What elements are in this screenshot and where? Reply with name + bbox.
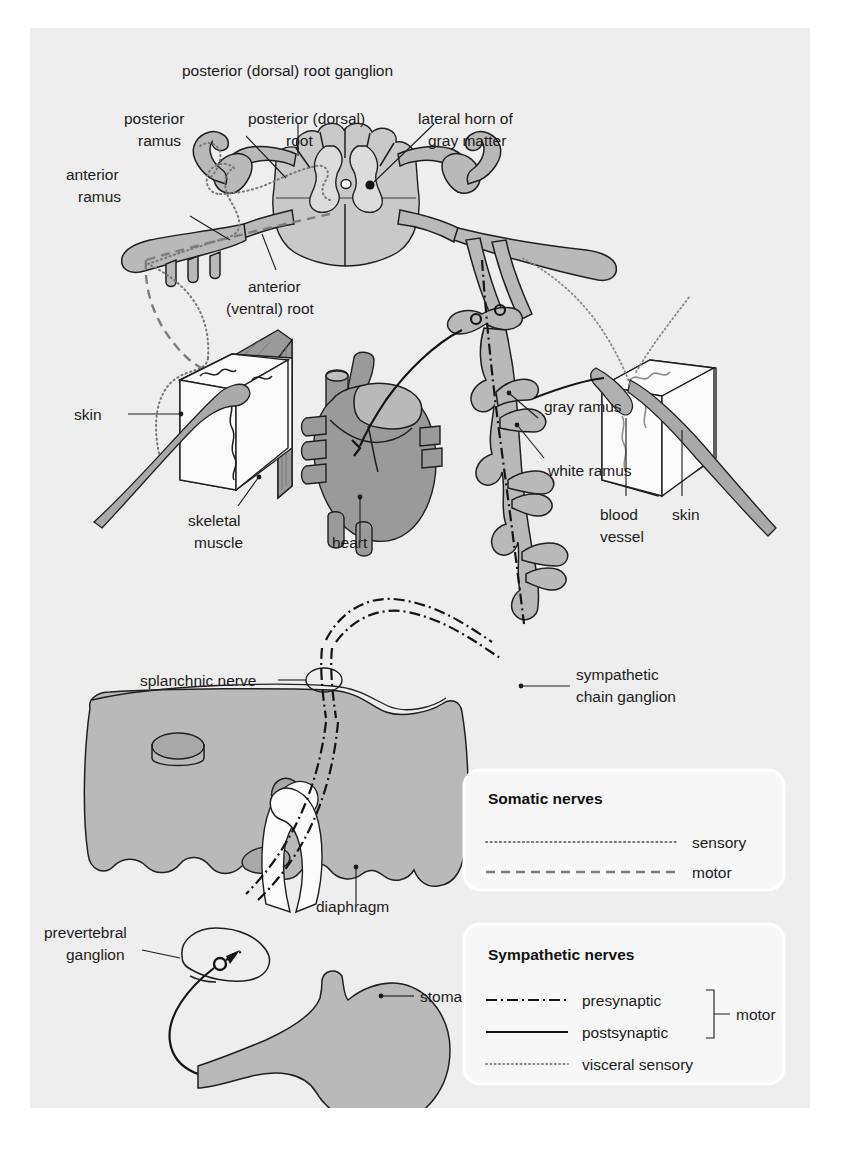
label-skin-left: skin [74, 406, 102, 423]
label-posterior-ramus-line1: posterior [124, 110, 184, 127]
label-blood-vessel-line2: vessel [600, 528, 644, 545]
label-sympathetic-chain-line2: chain ganglion [576, 688, 676, 705]
prevertebral-synapse [214, 958, 226, 970]
splanchnic-from-chain-2 [336, 611, 500, 658]
label-skeletal-muscle-line2: muscle [194, 534, 243, 551]
label-diaphragm: diaphragm [316, 898, 389, 915]
label-white-ramus: white ramus [547, 462, 632, 479]
figure-page: posterior (dorsal) root ganglion posteri… [0, 0, 843, 1161]
label-prevertebral-line2: ganglion [66, 946, 125, 963]
legend-visceral-sensory-label: visceral sensory [582, 1056, 693, 1073]
label-prevertebral-line1: prevertebral [44, 924, 127, 941]
lateral-horn-neuron [365, 180, 374, 189]
label-anterior-root-line1: anterior [248, 278, 301, 295]
diaphragm-group [84, 599, 500, 912]
legend-somatic-title: Somatic nerves [488, 790, 603, 807]
heart-group [302, 330, 463, 556]
prevertebral-stomach-group [170, 928, 450, 1108]
left-atrium [354, 383, 422, 429]
label-posterior-root-ganglion: posterior (dorsal) root ganglion [182, 62, 393, 79]
legend-postsynaptic-label: postsynaptic [582, 1024, 668, 1041]
diagram-canvas: posterior (dorsal) root ganglion posteri… [30, 28, 810, 1108]
label-anterior-root-line2: (ventral) root [226, 300, 315, 317]
anatomy-diagram-svg: posterior (dorsal) root ganglion posteri… [30, 28, 810, 1108]
label-lateral-horn-line2: gray matter [428, 132, 506, 149]
presyn-arrow [226, 950, 240, 964]
legend-sympathetic-title: Sympathetic nerves [488, 946, 634, 963]
legend-somatic: Somatic nerves sensory motor [464, 770, 784, 890]
splanchnic-from-chain-1 [326, 599, 492, 642]
legend-sympathetic: Sympathetic nerves presynaptic postsynap… [464, 924, 784, 1084]
legend-somatic-sensory-label: sensory [692, 834, 747, 851]
spinal-cord-group [122, 123, 617, 334]
stomach-body [198, 971, 450, 1108]
central-canal [341, 180, 351, 189]
label-blood-vessel-line1: blood [600, 506, 638, 523]
label-posterior-ramus-line2: ramus [138, 132, 181, 149]
label-gray-ramus: gray ramus [544, 398, 622, 415]
caval-opening [152, 733, 204, 759]
splanchnic-nerve-ring [306, 668, 342, 692]
anterior-ramus-left [122, 224, 246, 272]
label-sympathetic-chain-line1: sympathetic [576, 666, 659, 683]
vessel-lumen [326, 371, 348, 381]
skin-vessel-block-right [522, 258, 776, 536]
label-splanchnic-nerve: splanchnic nerve [140, 672, 256, 689]
label-heart: heart [332, 534, 368, 551]
legend-presynaptic-label: presynaptic [582, 992, 662, 1009]
legend-somatic-motor-label: motor [692, 864, 732, 881]
label-posterior-root-line2: root [286, 132, 313, 149]
label-posterior-root-line1: posterior (dorsal) [248, 110, 365, 127]
legend-motor-bracket-label: motor [736, 1006, 776, 1023]
label-anterior-ramus-line2: ramus [78, 188, 121, 205]
prevertebral-ganglion-body [182, 928, 270, 981]
label-anterior-ramus-line1: anterior [66, 166, 119, 183]
label-skin-right: skin [672, 506, 700, 523]
skin-muscle-block-left [94, 330, 292, 528]
label-skeletal-muscle-line1: skeletal [188, 512, 241, 529]
label-lateral-horn-line1: lateral horn of [418, 110, 513, 127]
